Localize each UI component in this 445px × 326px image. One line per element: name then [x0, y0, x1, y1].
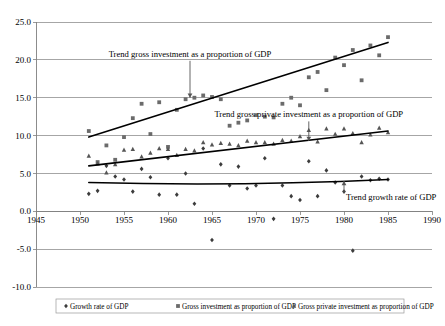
data-point-square — [316, 70, 320, 74]
annotation-label-2: Trend gross private investment as a prop… — [214, 109, 403, 119]
trend-line-2 — [89, 131, 388, 166]
data-point-square — [281, 102, 285, 106]
data-point-diamond — [175, 192, 179, 197]
data-point-square — [377, 53, 381, 57]
data-point-triangle — [192, 148, 196, 152]
data-point-square — [307, 75, 311, 79]
chart-container: Trend gross investment as a proportion o… — [0, 0, 445, 326]
annotation-arrowhead-1 — [188, 94, 193, 98]
data-point-square — [113, 158, 117, 162]
x-tick-label: 1945 — [27, 215, 46, 225]
data-point-square — [140, 102, 144, 106]
y-tick-label: 15.0 — [15, 93, 31, 103]
data-point-diamond — [184, 171, 188, 176]
data-point-square — [289, 96, 293, 100]
chart-legend: Growth rate of GDPGross investment as pr… — [56, 299, 434, 313]
legend-label-1: Growth rate of GDP — [70, 303, 129, 311]
data-point-square — [342, 63, 346, 67]
data-point-diamond — [122, 177, 126, 182]
legend-label-3: Gross private investment as proportion o… — [298, 303, 434, 311]
data-point-triangle — [201, 140, 205, 144]
data-point-triangle — [157, 146, 161, 150]
data-point-square — [131, 116, 135, 120]
data-point-triangle — [298, 134, 302, 138]
y-tick-label: 5.0 — [20, 169, 32, 179]
data-point-triangle — [219, 141, 223, 145]
data-point-triangle — [210, 142, 214, 146]
data-point-square — [351, 48, 355, 52]
tick-marks — [33, 22, 432, 287]
data-point-triangle — [148, 151, 152, 155]
data-point-square — [193, 96, 197, 100]
data-point-square — [228, 124, 232, 128]
gdp-investment-scatter-chart: Trend gross investment as a proportion o… — [0, 0, 445, 326]
data-point-triangle — [131, 147, 135, 151]
data-point-diamond — [219, 162, 223, 167]
y-axis-tick-labels: 25.020.015.010.05.00.0-5.0-10.0 — [12, 17, 31, 292]
data-point-diamond — [272, 217, 276, 222]
data-point-triangle — [87, 154, 91, 158]
x-axis-tick-labels: 1945195019551960196519701975198019851990 — [27, 215, 442, 225]
data-point-diamond — [140, 167, 144, 172]
annotation-label-1: Trend gross investment as a proportion o… — [109, 49, 272, 59]
data-point-diamond — [237, 164, 241, 169]
legend-label-2: Gross investment as proportion of GDP — [182, 303, 296, 311]
data-point-triangle — [333, 132, 337, 136]
data-point-square — [298, 103, 302, 107]
data-point-diamond — [131, 189, 135, 194]
x-tick-label: 1980 — [335, 215, 354, 225]
x-tick-label: 1975 — [291, 215, 310, 225]
data-point-triangle — [254, 140, 258, 144]
data-point-diamond — [289, 194, 293, 199]
data-point-diamond — [113, 174, 117, 179]
gridlines — [36, 22, 432, 287]
x-tick-label: 1970 — [247, 215, 266, 225]
y-tick-label: 10.0 — [15, 131, 31, 141]
y-tick-label: -5.0 — [17, 244, 32, 254]
data-point-triangle — [342, 126, 346, 130]
y-tick-label: 25.0 — [15, 17, 31, 27]
x-tick-label: 1985 — [379, 215, 398, 225]
data-point-square — [219, 97, 223, 101]
data-point-triangle — [139, 154, 143, 158]
data-point-diamond — [263, 156, 267, 161]
x-tick-label: 1965 — [203, 215, 222, 225]
data-point-triangle — [263, 140, 267, 144]
data-point-diamond — [210, 238, 214, 243]
series-1-markers — [87, 146, 390, 253]
x-tick-label: 1960 — [159, 215, 178, 225]
data-point-square — [184, 97, 188, 101]
data-point-diamond — [201, 146, 205, 151]
data-point-diamond — [307, 159, 311, 164]
data-point-diamond — [87, 192, 91, 197]
x-tick-label: 1955 — [115, 215, 134, 225]
data-point-diamond — [316, 194, 320, 199]
data-point-diamond — [96, 189, 100, 194]
annotation-label-3: Trend growth rate of GDP — [346, 192, 437, 202]
data-point-square — [201, 94, 205, 98]
data-point-square — [386, 35, 390, 39]
data-point-square — [157, 100, 161, 104]
data-point-diamond — [360, 174, 364, 179]
axes — [36, 22, 432, 287]
data-point-square — [149, 132, 153, 136]
data-point-diamond — [325, 168, 329, 173]
x-tick-label: 1990 — [423, 215, 442, 225]
data-point-square — [237, 121, 241, 125]
data-point-square — [105, 144, 109, 148]
data-point-square — [360, 78, 364, 82]
data-point-diamond — [298, 198, 302, 203]
legend-marker-square — [176, 304, 180, 308]
data-point-triangle — [324, 126, 328, 130]
data-point-square — [325, 88, 329, 92]
data-point-triangle — [183, 147, 187, 151]
data-point-square — [87, 129, 91, 133]
data-point-triangle — [377, 126, 381, 130]
data-point-diamond — [193, 201, 197, 206]
data-point-triangle — [245, 138, 249, 142]
y-tick-label: 20.0 — [15, 55, 31, 65]
data-point-triangle — [227, 142, 231, 146]
y-tick-label: -10.0 — [12, 282, 31, 292]
data-point-triangle — [104, 170, 108, 174]
data-point-diamond — [157, 192, 161, 197]
